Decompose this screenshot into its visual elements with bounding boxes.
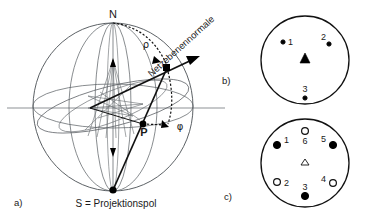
netzebenennormale-arrowhead <box>186 56 200 65</box>
center-to-p-ray <box>90 108 143 124</box>
north-pole-label: N <box>109 8 117 20</box>
panel-b-zone-axis-triangle-icon <box>300 53 310 63</box>
panel-b-label: b) <box>222 75 230 86</box>
panel-c-point-6 <box>302 128 309 135</box>
panel-b-pole-figure: 1 2 3 b) <box>222 16 349 104</box>
panel-b-point-2-label: 2 <box>321 32 326 42</box>
panel-c-point-1 <box>273 141 280 148</box>
panel-c-point-1-label: 1 <box>284 135 289 145</box>
panel-b-point-2 <box>327 42 331 46</box>
panel-c-point-6-label: 6 <box>302 136 307 146</box>
panel-a-sphere-diagram: N S = Projektionspol P ρ φ Netzebenennor… <box>7 8 225 209</box>
inner-axis-arrowhead-down <box>110 148 116 157</box>
panel-c-point-2-label: 2 <box>284 178 289 188</box>
angle-rho-label: ρ <box>143 39 149 50</box>
panel-c-point-3-label: 3 <box>302 182 307 192</box>
phi-arrowhead <box>161 120 169 128</box>
panel-a-label: a) <box>14 197 22 208</box>
panel-c-point-3 <box>301 192 308 199</box>
panel-c-point-4 <box>330 180 337 187</box>
panel-b-point-1-label: 1 <box>288 37 293 47</box>
stereographic-projection-figure: N S = Projektionspol P ρ φ Netzebenennor… <box>0 0 376 219</box>
phi-drop-dashed <box>167 68 172 124</box>
angle-phi-label: φ <box>177 121 184 132</box>
panel-c-point-5-label: 5 <box>321 134 326 144</box>
panel-c-point-4-label: 4 <box>321 174 326 184</box>
panel-b-point-1 <box>281 40 285 44</box>
panel-c-label: c) <box>224 191 232 202</box>
south-pole-marker <box>109 186 116 193</box>
panel-b-point-3-label: 3 <box>302 84 307 94</box>
south-pole-label: S = Projektionspol <box>76 198 157 209</box>
inner-axis-arrowhead <box>110 58 116 67</box>
point-p-label: P <box>140 126 147 138</box>
panel-c-point-2 <box>274 179 281 186</box>
panel-c-zone-axis-triangle-icon <box>301 159 309 165</box>
panel-c-point-5 <box>329 141 336 148</box>
panel-b-point-3 <box>303 96 307 100</box>
panel-c-pole-figure: 1 2 3 4 5 6 c) <box>224 119 349 207</box>
